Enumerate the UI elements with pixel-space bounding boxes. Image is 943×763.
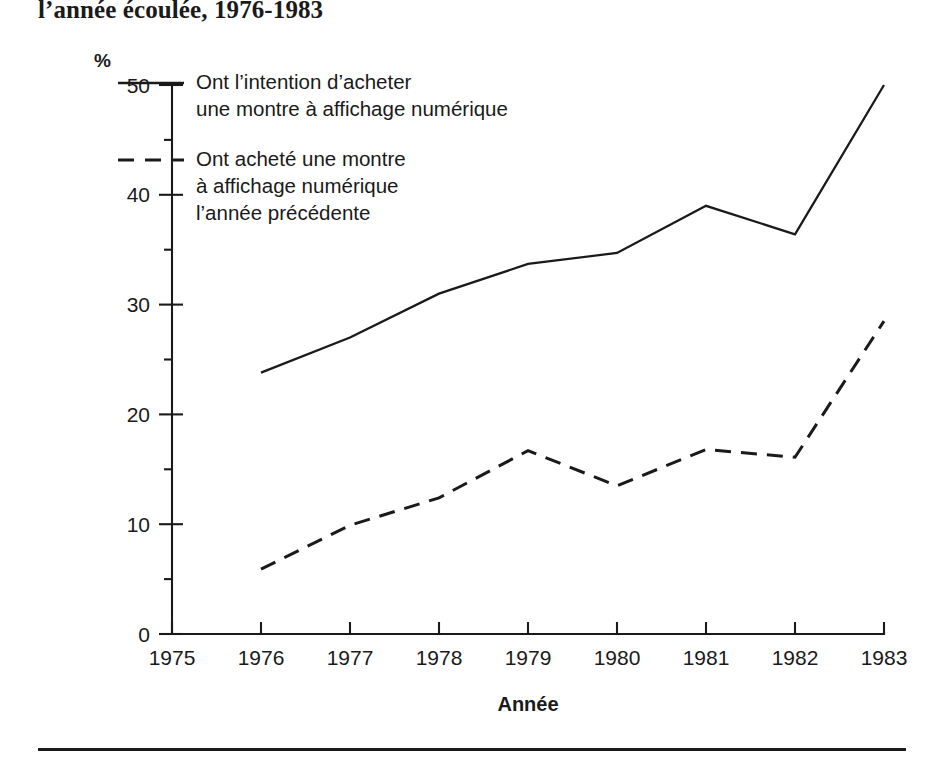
y-tick-label: 30 xyxy=(127,293,150,316)
chart-legend: Ont l’intention d’acheterune montre à af… xyxy=(118,70,508,224)
legend-label: l’année précédente xyxy=(196,201,370,224)
x-tick-label: 1978 xyxy=(416,646,463,669)
legend-label: une montre à affichage numérique xyxy=(196,97,508,120)
series-line-intent xyxy=(261,85,884,373)
y-tick-label: 0 xyxy=(138,623,150,646)
legend-label: Ont l’intention d’acheter xyxy=(196,70,412,93)
axis-titles: Année xyxy=(497,693,558,715)
x-tick-label: 1980 xyxy=(594,646,641,669)
y-tick-label: 40 xyxy=(127,183,150,206)
line-chart: 50403020100% 197519761977197819791980198… xyxy=(0,0,943,763)
y-axis-unit-label: % xyxy=(94,50,111,71)
chart-figure: 50403020100% 197519761977197819791980198… xyxy=(0,0,943,763)
x-axis-title: Année xyxy=(497,693,558,715)
x-tick-label: 1981 xyxy=(683,646,730,669)
x-tick-label: 1975 xyxy=(149,646,196,669)
y-tick-label: 20 xyxy=(127,403,150,426)
x-axis-tick-labels: 197519761977197819791980198119821983 xyxy=(149,646,908,669)
x-tick-label: 1977 xyxy=(327,646,374,669)
x-tick-label: 1979 xyxy=(505,646,552,669)
y-axis-tick-labels: 50403020100% xyxy=(94,50,150,646)
x-tick-label: 1976 xyxy=(238,646,285,669)
x-tick-label: 1983 xyxy=(861,646,908,669)
x-tick-label: 1982 xyxy=(772,646,819,669)
series-line-purchased xyxy=(261,321,884,569)
y-tick-label: 50 xyxy=(127,74,150,97)
footer-divider xyxy=(38,748,906,751)
y-tick-label: 10 xyxy=(127,513,150,536)
legend-label: Ont acheté une montre xyxy=(196,147,406,170)
legend-label: à affichage numérique xyxy=(196,174,399,197)
